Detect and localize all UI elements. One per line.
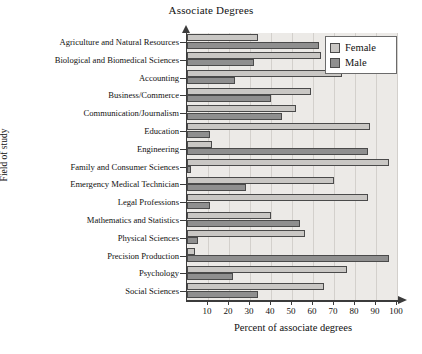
bar-male: [187, 42, 319, 49]
bar-female: [187, 266, 347, 273]
bar-group: [187, 158, 397, 176]
y-axis-tick: [180, 256, 186, 257]
bar-male: [187, 95, 271, 102]
x-axis-tick: [228, 300, 229, 305]
y-axis-category-label: Agriculture and Natural Resources: [59, 37, 179, 47]
bar-group: [187, 264, 397, 282]
y-axis-tick: [180, 273, 186, 274]
chart-legend: Female Male: [325, 36, 397, 74]
y-axis-tick: [180, 78, 186, 79]
bar-male: [187, 220, 300, 227]
y-axis-tick: [180, 220, 186, 221]
bar-female: [187, 105, 296, 112]
bar-male: [187, 273, 233, 280]
y-axis-category-label: Biological and Biomedical Sciences: [55, 55, 179, 65]
bar-male: [187, 131, 210, 138]
bar-female: [187, 34, 258, 41]
bar-female: [187, 159, 389, 166]
y-axis-category-label: Family and Consumer Sciences: [70, 162, 179, 172]
y-axis-category-label: Legal Professions: [118, 197, 179, 207]
y-axis-category-label: Education: [144, 126, 179, 136]
y-axis-category-label: Physical Sciences: [118, 233, 179, 243]
y-axis-tick: [180, 149, 186, 150]
x-axis-tick: [207, 300, 208, 305]
bar-group: [187, 175, 397, 193]
y-axis-category-labels: Agriculture and Natural ResourcesBiologi…: [0, 0, 179, 354]
y-axis-arrow: [182, 25, 190, 33]
x-axis-tick-label: 100: [383, 306, 409, 316]
bar-male: [187, 166, 191, 173]
y-axis-tick: [180, 291, 186, 292]
bar-female: [187, 194, 368, 201]
x-axis-arrow: [398, 296, 407, 304]
bar-female: [187, 88, 311, 95]
gridline: [397, 33, 398, 300]
bar-female: [187, 212, 271, 219]
bar-male: [187, 202, 210, 209]
legend-swatch-female-icon: [330, 43, 340, 53]
y-axis-category-label: Psychology: [139, 268, 179, 278]
x-axis-tick: [333, 300, 334, 305]
bar-female: [187, 52, 321, 59]
bar-female: [187, 141, 212, 148]
x-axis-tick: [312, 300, 313, 305]
bar-male: [187, 184, 246, 191]
y-axis-category-label: Communication/Journalism: [84, 108, 179, 118]
y-axis-category-label: Business/Commerce: [108, 90, 179, 100]
x-axis-line: [186, 300, 400, 302]
y-axis-tick: [180, 167, 186, 168]
legend-label-female: Female: [345, 42, 376, 53]
y-axis-tick: [180, 131, 186, 132]
bar-male: [187, 59, 254, 66]
bar-female: [187, 70, 342, 77]
bar-male: [187, 77, 235, 84]
bar-male: [187, 255, 389, 262]
bar-female: [187, 177, 334, 184]
y-axis-tick: [180, 60, 186, 61]
associate-degrees-chart: Associate Degrees Field of study Agricul…: [0, 0, 422, 354]
x-axis-tick: [270, 300, 271, 305]
x-axis-tick: [375, 300, 376, 305]
legend-item-male: Male: [330, 55, 392, 70]
bar-female: [187, 283, 324, 290]
bar-female: [187, 248, 195, 255]
bar-male: [187, 148, 368, 155]
legend-swatch-male-icon: [330, 58, 340, 68]
bar-male: [187, 113, 282, 120]
bar-group: [187, 122, 397, 140]
x-axis-title: Percent of associate degrees: [186, 322, 400, 333]
bar-group: [187, 104, 397, 122]
bar-group: [187, 86, 397, 104]
x-axis-tick: [291, 300, 292, 305]
y-axis-category-label: Mathematics and Statistics: [87, 215, 179, 225]
x-axis-tick: [354, 300, 355, 305]
legend-item-female: Female: [330, 40, 392, 55]
bar-group: [187, 282, 397, 300]
bar-male: [187, 291, 258, 298]
y-axis-tick: [180, 42, 186, 43]
bar-group: [187, 140, 397, 158]
y-axis-category-label: Engineering: [137, 144, 179, 154]
bar-female: [187, 123, 370, 130]
bar-male: [187, 237, 198, 244]
y-axis-tick: [180, 184, 186, 185]
y-axis-tick: [180, 238, 186, 239]
bar-group: [187, 247, 397, 265]
bar-group: [187, 211, 397, 229]
y-axis-category-label: Precision Production: [107, 251, 179, 261]
legend-label-male: Male: [345, 57, 367, 68]
y-axis-category-label: Emergency Medical Technician: [70, 179, 179, 189]
y-axis-tick: [180, 202, 186, 203]
x-axis-tick: [396, 300, 397, 305]
y-axis-category-label: Accounting: [139, 73, 179, 83]
bar-female: [187, 230, 305, 237]
bar-group: [187, 229, 397, 247]
y-axis-category-label: Social Sciences: [125, 286, 179, 296]
x-axis-tick: [249, 300, 250, 305]
bar-group: [187, 193, 397, 211]
y-axis-tick: [180, 95, 186, 96]
y-axis-tick: [180, 113, 186, 114]
